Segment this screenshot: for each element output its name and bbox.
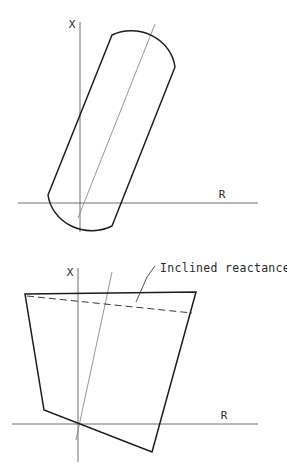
upper-panel: X R xyxy=(18,18,258,232)
lower-panel: Inclined reactance X R xyxy=(12,261,287,462)
inclined-reactance-label: Inclined reactance xyxy=(160,261,287,275)
technical-diagram-figure: X R Inclined reactance X R xyxy=(0,0,287,467)
inclined-reactance-line xyxy=(27,296,192,313)
upper-r-axis-label: R xyxy=(219,188,226,201)
upper-capsule-centerline xyxy=(78,24,155,218)
upper-capsule-outline xyxy=(48,31,175,231)
lower-region-centerline xyxy=(76,272,112,440)
lower-x-axis-label: X xyxy=(67,266,74,279)
lower-region-outline xyxy=(25,292,196,452)
inclined-reactance-leader-line xyxy=(136,266,155,302)
lower-r-axis-label: R xyxy=(221,409,228,422)
upper-x-axis-label: X xyxy=(69,18,76,31)
diagram-canvas: X R Inclined reactance X R xyxy=(0,0,287,467)
